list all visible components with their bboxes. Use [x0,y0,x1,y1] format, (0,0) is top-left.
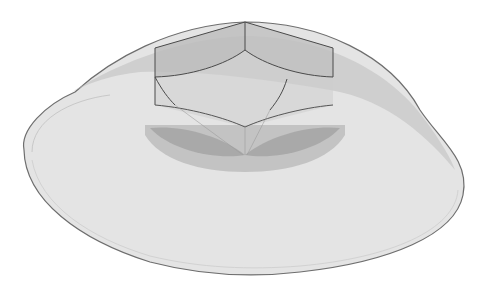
dome-nut-render [0,0,481,291]
render-canvas: Transparent dome cap enclosing a hexagon… [0,0,481,291]
